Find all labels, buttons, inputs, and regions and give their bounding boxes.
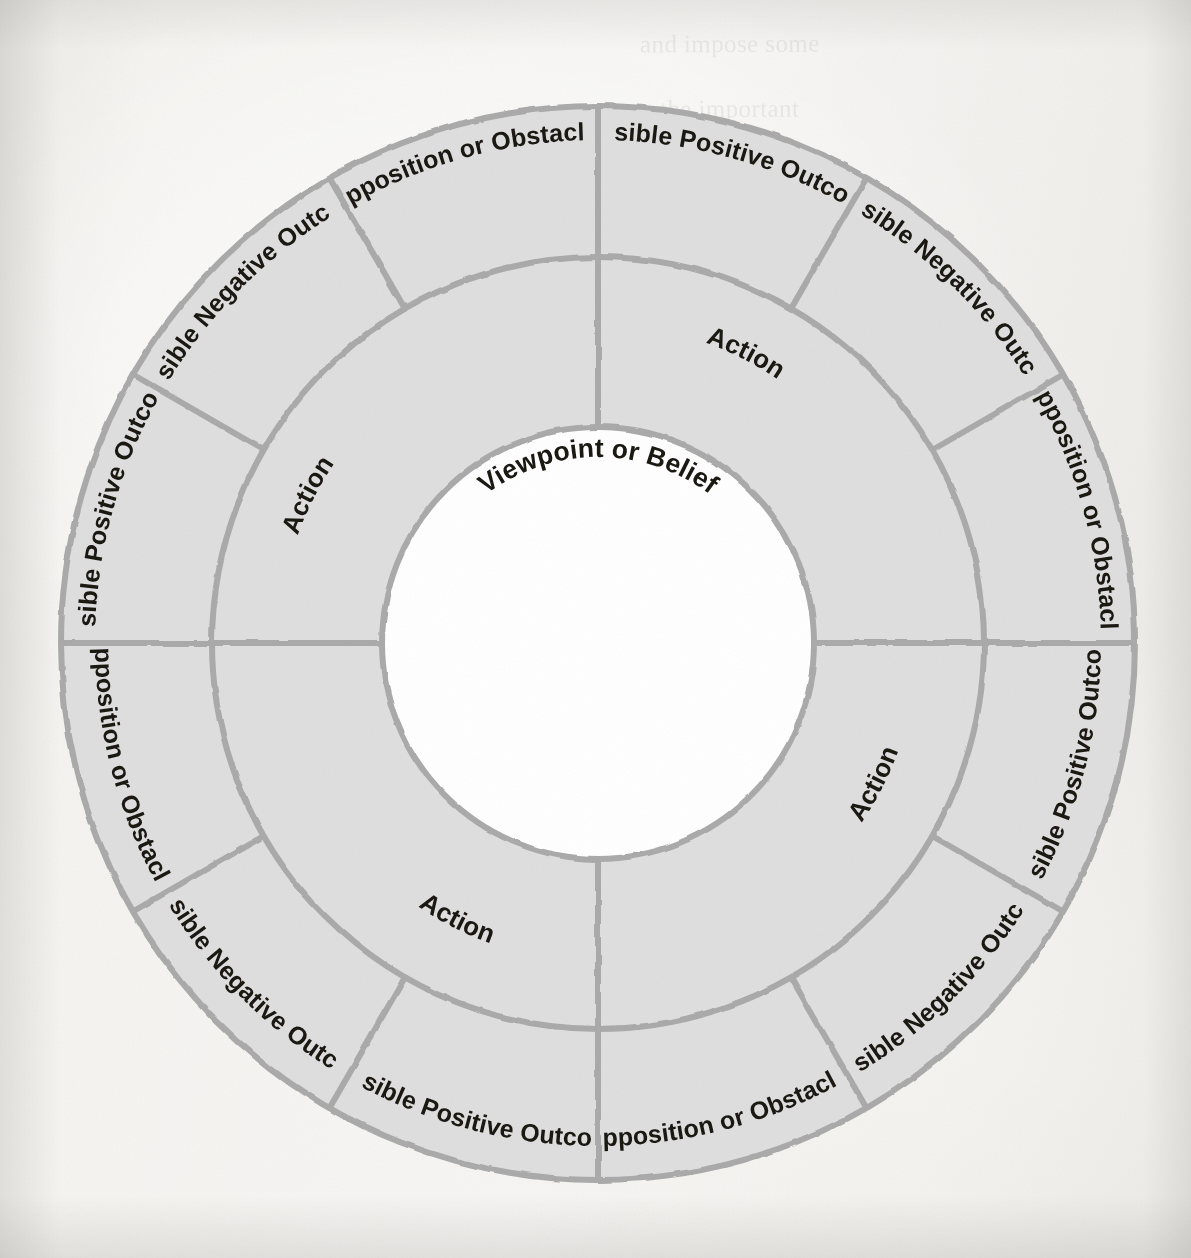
scanned-page: and impose some the important ideas mean… [0,0,1191,1258]
wheel-diagram: Viewpoint or BeliefActionActionActionAct… [0,0,1191,1258]
center-hub [382,427,814,859]
